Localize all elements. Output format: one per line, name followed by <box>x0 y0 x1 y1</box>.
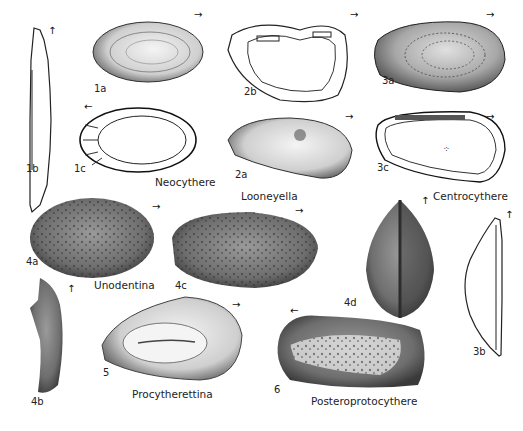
specimen-1c <box>80 108 196 172</box>
svg-text:⁘: ⁘ <box>443 145 450 154</box>
figure-label-2a: 2a <box>235 169 248 180</box>
arrow-right-icon: → <box>232 300 240 310</box>
arrow-right-icon: → <box>486 112 494 122</box>
arrow-right-icon: → <box>350 10 358 20</box>
genus-label-procytherettina: Procytherettina <box>132 388 213 400</box>
specimen-1b <box>30 28 51 212</box>
figure-label-4a: 4a <box>26 256 39 267</box>
figure-label-3b: 3b <box>473 346 486 357</box>
genus-label-posteroprotocythere: Posteroprotocythere <box>311 395 417 407</box>
figure-label-3a: 3a <box>382 75 395 86</box>
specimen-4c <box>172 212 318 288</box>
specimen-6 <box>278 315 425 387</box>
ostracod-plate-illustrations: ⁘ <box>0 0 523 431</box>
specimen-4d <box>366 200 434 318</box>
figure-label-4d: 4d <box>344 297 357 308</box>
arrow-right-icon: → <box>152 202 160 212</box>
figure-label-1c: 1c <box>74 163 86 174</box>
figure-label-6: 6 <box>274 384 280 395</box>
specimen-1a <box>93 22 203 82</box>
figure-label-4b: 4b <box>31 396 44 407</box>
figure-label-1b: 1b <box>26 163 39 174</box>
specimen-3b <box>465 218 502 356</box>
genus-label-neocythere: Neocythere <box>155 176 216 188</box>
genus-label-centrocythere: Centrocythere <box>433 190 508 202</box>
arrow-right-icon: → <box>486 10 494 20</box>
arrow-right-icon: → <box>295 206 303 216</box>
arrow-left-icon: ← <box>290 306 298 316</box>
specimen-3c: ⁘ <box>376 112 505 182</box>
specimen-4a <box>30 198 154 278</box>
arrow-up-icon: ↑ <box>421 196 429 206</box>
arrow-up-icon: ↑ <box>505 210 513 220</box>
specimen-5 <box>102 297 242 380</box>
figure-label-1a: 1a <box>94 83 107 94</box>
genus-label-looneyella: Looneyella <box>241 190 298 202</box>
arrow-up-icon: ↑ <box>67 284 75 294</box>
arrow-right-icon: → <box>194 10 202 20</box>
arrow-up-icon: ↑ <box>48 26 56 36</box>
genus-label-unodentina: Unodentina <box>94 279 155 291</box>
figure-label-4c: 4c <box>175 280 187 291</box>
arrow-right-icon: → <box>345 112 353 122</box>
figure-label-2b: 2b <box>244 86 257 97</box>
figure-label-3c: 3c <box>377 162 389 173</box>
specimen-4b <box>30 278 63 393</box>
arrow-left-icon: ← <box>84 102 92 112</box>
figure-label-5: 5 <box>103 367 109 378</box>
